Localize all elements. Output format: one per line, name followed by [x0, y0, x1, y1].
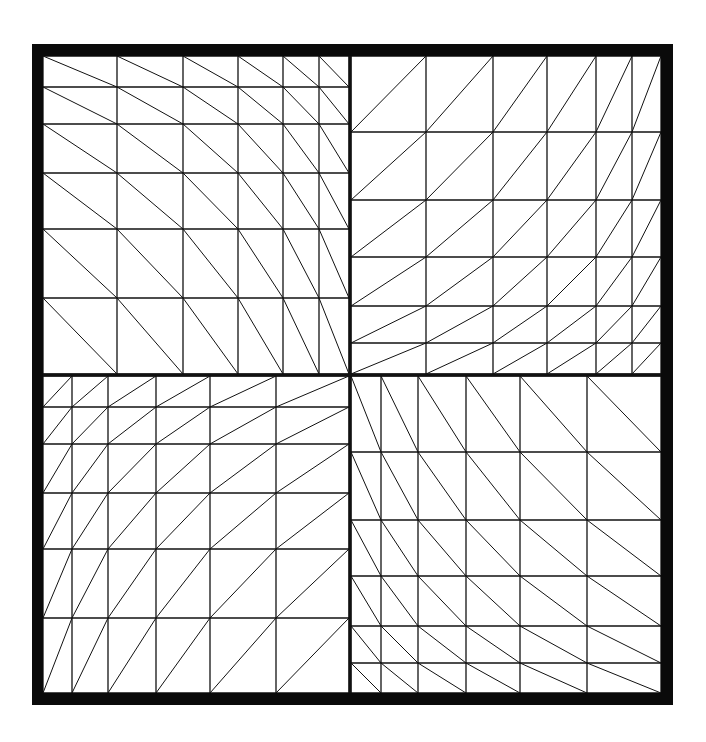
cell-diagonal: [587, 452, 661, 520]
cell-diagonal: [493, 200, 547, 257]
cell-diagonal: [547, 200, 596, 257]
cell-diagonal: [351, 343, 426, 374]
cell-diagonal: [276, 444, 349, 493]
cell-diagonal: [426, 56, 493, 132]
cell-diagonal: [587, 626, 661, 663]
cell-diagonal: [587, 576, 661, 626]
cell-diagonal: [351, 56, 426, 132]
cell-diagonal: [466, 452, 520, 520]
cell-diagonal: [283, 87, 319, 124]
cell-diagonal: [381, 626, 418, 663]
cell-diagonal: [493, 56, 547, 132]
cell-diagonal: [319, 87, 349, 124]
cell-diagonal: [381, 376, 418, 452]
cell-diagonal: [283, 173, 319, 229]
cell-diagonal: [72, 407, 108, 444]
cell-diagonal: [426, 257, 493, 306]
cell-diagonal: [632, 306, 661, 343]
cell-diagonal: [493, 306, 547, 343]
cell-diagonal: [520, 576, 587, 626]
cell-diagonal: [381, 452, 418, 520]
cell-diagonal: [117, 124, 183, 173]
quadrant-top-right: [351, 56, 661, 374]
cell-diagonal: [283, 229, 319, 298]
cell-diagonal: [351, 626, 381, 663]
cell-diagonal: [319, 229, 349, 298]
cell-diagonal: [72, 618, 108, 693]
cell-diagonal: [351, 452, 381, 520]
cell-diagonal: [520, 376, 587, 452]
cell-diagonal: [276, 376, 349, 407]
cell-diagonal: [351, 576, 381, 626]
cell-diagonal: [466, 576, 520, 626]
cell-diagonal: [108, 493, 156, 549]
cell-diagonal: [547, 56, 596, 132]
cell-diagonal: [210, 493, 276, 549]
cell-diagonal: [520, 626, 587, 663]
cell-diagonal: [117, 298, 183, 374]
cell-diagonal: [43, 229, 117, 298]
cell-diagonal: [108, 549, 156, 618]
cell-diagonal: [466, 663, 520, 693]
cell-diagonal: [351, 663, 381, 693]
cell-diagonal: [108, 376, 156, 407]
cell-diagonal: [183, 229, 238, 298]
cell-diagonal: [210, 444, 276, 493]
cell-diagonal: [276, 549, 349, 618]
quadrant-bottom-right: [351, 376, 661, 693]
cell-diagonal: [72, 493, 108, 549]
cell-diagonal: [587, 663, 661, 693]
cell-diagonal: [632, 343, 661, 374]
cell-diagonal: [156, 407, 210, 444]
cell-diagonal: [238, 173, 283, 229]
center-dividers: [43, 56, 661, 693]
cell-diagonal: [319, 173, 349, 229]
cell-diagonal: [238, 124, 283, 173]
cell-diagonal: [43, 493, 72, 549]
cell-diagonal: [183, 56, 238, 87]
cell-diagonal: [520, 663, 587, 693]
cell-diagonal: [276, 493, 349, 549]
cell-diagonal: [426, 200, 493, 257]
cell-diagonal: [493, 343, 547, 374]
cell-diagonal: [117, 229, 183, 298]
cell-diagonal: [183, 124, 238, 173]
cell-diagonal: [117, 173, 183, 229]
cell-diagonal: [547, 257, 596, 306]
cell-diagonal: [238, 56, 283, 87]
cell-diagonal: [117, 87, 183, 124]
cell-diagonal: [632, 132, 661, 200]
cell-diagonal: [156, 618, 210, 693]
cell-diagonal: [117, 56, 183, 87]
cell-diagonal: [426, 132, 493, 200]
cell-diagonal: [156, 493, 210, 549]
cell-diagonal: [587, 376, 661, 452]
cell-diagonal: [210, 549, 276, 618]
cell-diagonal: [351, 257, 426, 306]
cell-diagonal: [351, 200, 426, 257]
cell-diagonal: [283, 124, 319, 173]
mesh-diagram: [0, 0, 706, 742]
cell-diagonal: [426, 343, 493, 374]
cell-diagonal: [493, 257, 547, 306]
cell-diagonal: [520, 452, 587, 520]
cell-diagonal: [596, 257, 632, 306]
cell-diagonal: [238, 229, 283, 298]
cell-diagonal: [547, 132, 596, 200]
cell-diagonal: [547, 343, 596, 374]
quadrant-bottom-left: [43, 376, 349, 693]
cell-diagonal: [381, 576, 418, 626]
cell-diagonal: [596, 56, 632, 132]
cell-diagonal: [632, 200, 661, 257]
cell-diagonal: [418, 376, 466, 452]
quadrant-top-left: [43, 56, 349, 374]
cell-diagonal: [283, 298, 319, 374]
cell-diagonal: [351, 520, 381, 576]
cell-diagonal: [466, 626, 520, 663]
cell-diagonal: [418, 576, 466, 626]
cell-diagonal: [43, 298, 117, 374]
cell-diagonal: [210, 618, 276, 693]
cell-diagonal: [319, 298, 349, 374]
cell-diagonal: [183, 173, 238, 229]
cell-diagonal: [596, 132, 632, 200]
